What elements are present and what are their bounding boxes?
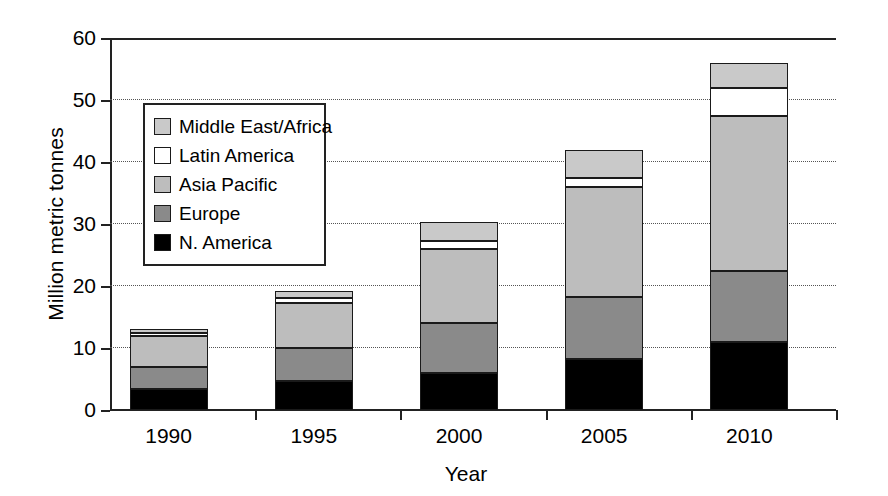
legend-label: Europe: [179, 203, 240, 225]
y-tick-label: 10: [73, 336, 96, 360]
legend-swatch-icon: [154, 118, 171, 135]
bar-2000[interactable]: [420, 222, 498, 410]
y-tick-label: 20: [73, 274, 96, 298]
bar-segment-n-america[interactable]: [275, 381, 353, 410]
legend-item-n-america[interactable]: N. America: [154, 228, 316, 257]
legend-item-asia-pacific[interactable]: Asia Pacific: [154, 170, 316, 199]
x-tick-label-2010: 2010: [726, 424, 773, 448]
y-tick-label: 40: [73, 150, 96, 174]
legend-swatch-icon: [154, 147, 171, 164]
y-tick-label: 30: [73, 212, 96, 236]
stacked-bar-chart: Million metric tonnes Year 0102030405060…: [0, 0, 888, 496]
legend-swatch-icon: [154, 205, 171, 222]
bar-segment-latin-america[interactable]: [275, 298, 353, 302]
bar-segment-latin-america[interactable]: [130, 333, 208, 336]
legend-label: N. America: [179, 232, 272, 254]
legend-swatch-icon: [154, 234, 171, 251]
x-tick-label-2005: 2005: [581, 424, 628, 448]
legend-item-middle-east-africa[interactable]: Middle East/Africa: [154, 112, 316, 141]
y-tick-mark: [101, 38, 110, 40]
legend-swatch-icon: [154, 176, 171, 193]
bar-segment-asia-pacific[interactable]: [565, 187, 643, 297]
bar-segment-europe[interactable]: [420, 323, 498, 373]
bar-segment-asia-pacific[interactable]: [275, 303, 353, 348]
bar-1990[interactable]: [130, 329, 208, 410]
legend-label: Asia Pacific: [179, 174, 277, 196]
bar-segment-middle-east-africa[interactable]: [565, 150, 643, 178]
x-tick-mark-2000: [546, 410, 548, 420]
legend-label: Latin America: [179, 145, 294, 167]
legend-label: Middle East/Africa: [179, 116, 332, 138]
bar-segment-europe[interactable]: [130, 367, 208, 389]
bar-segment-latin-america[interactable]: [420, 241, 498, 249]
x-axis-title: Year: [96, 462, 836, 486]
x-tick-label-1990: 1990: [145, 424, 192, 448]
y-tick-mark: [101, 162, 110, 164]
bar-segment-latin-america[interactable]: [710, 88, 788, 116]
bar-segment-asia-pacific[interactable]: [130, 336, 208, 366]
bar-1995[interactable]: [275, 291, 353, 410]
bar-segment-europe[interactable]: [565, 297, 643, 359]
x-tick-label-1995: 1995: [290, 424, 337, 448]
plot-frame-top: [110, 38, 836, 40]
bar-2005[interactable]: [565, 150, 643, 410]
bar-segment-europe[interactable]: [275, 348, 353, 381]
bar-segment-europe[interactable]: [710, 271, 788, 342]
x-tick-label-2000: 2000: [436, 424, 483, 448]
bar-segment-middle-east-africa[interactable]: [710, 63, 788, 88]
bar-segment-middle-east-africa[interactable]: [275, 291, 353, 298]
chart-legend: Middle East/AfricaLatin AmericaAsia Paci…: [143, 103, 326, 266]
y-tick-mark: [101, 348, 110, 350]
bar-segment-n-america[interactable]: [420, 373, 498, 410]
x-tick-mark-2005: [691, 410, 693, 420]
bar-segment-n-america[interactable]: [565, 359, 643, 410]
legend-item-europe[interactable]: Europe: [154, 199, 316, 228]
y-tick-label: 50: [73, 88, 96, 112]
legend-item-latin-america[interactable]: Latin America: [154, 141, 316, 170]
y-tick-mark: [101, 286, 110, 288]
y-tick-mark: [101, 224, 110, 226]
bar-2010[interactable]: [710, 63, 788, 410]
y-tick-mark: [101, 100, 110, 102]
bar-segment-asia-pacific[interactable]: [710, 116, 788, 271]
y-axis-title: Million metric tonnes: [44, 64, 68, 384]
y-tick-mark: [101, 410, 110, 412]
bar-segment-middle-east-africa[interactable]: [420, 222, 498, 241]
bar-segment-middle-east-africa[interactable]: [130, 329, 208, 333]
x-tick-mark-1990: [255, 410, 257, 420]
y-tick-label: 0: [84, 398, 96, 422]
x-tick-mark-1995: [400, 410, 402, 420]
x-tick-mark-2010: [836, 410, 838, 420]
bar-segment-latin-america[interactable]: [565, 178, 643, 187]
bar-segment-n-america[interactable]: [710, 342, 788, 410]
y-tick-label: 60: [73, 26, 96, 50]
bar-segment-n-america[interactable]: [130, 389, 208, 410]
bar-segment-asia-pacific[interactable]: [420, 249, 498, 323]
y-axis-line: [110, 38, 112, 410]
